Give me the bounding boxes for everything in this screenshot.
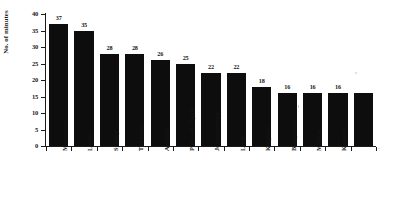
x-axis-tick-mark bbox=[148, 147, 149, 151]
plot-area bbox=[46, 14, 376, 146]
chart-page: No. of minutes 0510152025303540 37352828… bbox=[0, 0, 393, 219]
x-axis-tick-mark bbox=[71, 147, 72, 151]
bar-value-label: 16 bbox=[275, 84, 300, 90]
bar-value-label: 35 bbox=[71, 22, 96, 28]
bar-value-label: 28 bbox=[97, 45, 122, 51]
bar-value-label: 37 bbox=[46, 15, 71, 21]
x-axis-tick-mark bbox=[97, 147, 98, 151]
bar-value-label: 26 bbox=[148, 51, 173, 57]
y-axis-title: No. of minutes bbox=[2, 0, 9, 70]
x-axis-tick-mark bbox=[351, 147, 352, 151]
y-axis-tick-label: 30 bbox=[10, 44, 38, 51]
x-axis-category-label: Lord's bbox=[86, 133, 93, 151]
x-axis-tick-mark bbox=[198, 147, 199, 151]
x-axis-category-label: Adelaide bbox=[163, 127, 170, 151]
x-axis-category-label: Karachi bbox=[340, 129, 347, 151]
x-axis-category-label: Melbourne bbox=[61, 121, 68, 151]
x-axis-tick-mark bbox=[224, 147, 225, 151]
y-axis-tick-label: 25 bbox=[10, 61, 38, 68]
scan-speckle bbox=[298, 105, 299, 108]
y-axis-tick-label: 10 bbox=[10, 110, 38, 117]
bar-value-label: 22 bbox=[198, 64, 223, 70]
bar-value-label: 16 bbox=[300, 84, 325, 90]
scan-speckle bbox=[355, 72, 357, 74]
x-axis-tick-mark bbox=[122, 147, 123, 151]
x-axis-category-label: Sydney bbox=[112, 131, 119, 151]
x-axis-category-label: The Oval bbox=[137, 126, 144, 151]
bar-value-label: 18 bbox=[249, 78, 274, 84]
bar-value-label: 25 bbox=[173, 55, 198, 61]
x-axis-tick-mark bbox=[173, 147, 174, 151]
x-axis-tick-mark bbox=[274, 147, 275, 151]
y-axis-tick-label: 40 bbox=[10, 11, 38, 18]
x-axis-category-label: Leeds bbox=[239, 135, 246, 151]
x-axis-category-label: Madras bbox=[315, 130, 322, 151]
y-axis-tick-label: 0 bbox=[10, 143, 38, 150]
y-axis-tick-label: 35 bbox=[10, 28, 38, 35]
x-axis-tick-mark bbox=[325, 147, 326, 151]
x-axis-line bbox=[45, 146, 376, 147]
x-axis-category-label: Port - of - Spain bbox=[188, 107, 195, 151]
x-axis-tick-mark bbox=[300, 147, 301, 151]
bar-value-label: 22 bbox=[224, 64, 249, 70]
x-axis-tick-mark bbox=[46, 147, 47, 151]
x-axis-tick-mark bbox=[249, 147, 250, 151]
bar-value-label: 16 bbox=[325, 84, 350, 90]
y-axis-tick-label: 20 bbox=[10, 77, 38, 84]
bar bbox=[74, 31, 93, 147]
y-axis-tick-label: 5 bbox=[10, 127, 38, 134]
scan-speckle bbox=[378, 148, 380, 149]
bar bbox=[354, 93, 373, 146]
x-axis-category-label: Kingston bbox=[264, 126, 271, 151]
y-axis-tick-label: 15 bbox=[10, 94, 38, 101]
x-axis-tick-mark bbox=[376, 147, 377, 151]
x-axis-category-label: Bridgetown bbox=[290, 119, 297, 151]
x-axis-category-label: Johannesburg bbox=[213, 112, 220, 151]
bar-value-label: 28 bbox=[122, 45, 147, 51]
